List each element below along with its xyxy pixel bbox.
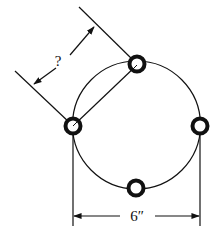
diagram-svg: ? 6″ (0, 0, 221, 233)
right-hole (193, 119, 208, 134)
bottom-hole (129, 181, 144, 196)
diameter-label: 6″ (130, 208, 144, 224)
top-hole (130, 57, 145, 72)
dimension-arrow-unknown-upper (70, 27, 94, 55)
extension-line-left (15, 71, 71, 124)
dimension-arrow-unknown-lower (34, 68, 56, 84)
bolt-circle (73, 61, 201, 189)
bolt-circle-diagram: ? 6″ (0, 0, 221, 233)
unknown-distance-label: ? (55, 53, 62, 69)
chord-line (73, 65, 137, 126)
